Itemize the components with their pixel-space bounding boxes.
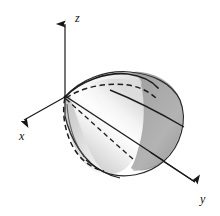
axis-y-label: y	[199, 192, 206, 206]
axis-z-label: z	[74, 11, 80, 25]
axis-x-line	[24, 97, 65, 120]
figure-canvas: z x y	[0, 0, 220, 216]
paraboloid-solid	[62, 72, 196, 182]
axis-x: x	[18, 97, 65, 143]
paraboloid-figure: z x y	[0, 0, 220, 216]
axis-z: z	[65, 11, 80, 97]
origin-point	[64, 96, 67, 99]
axis-x-label: x	[18, 129, 25, 143]
